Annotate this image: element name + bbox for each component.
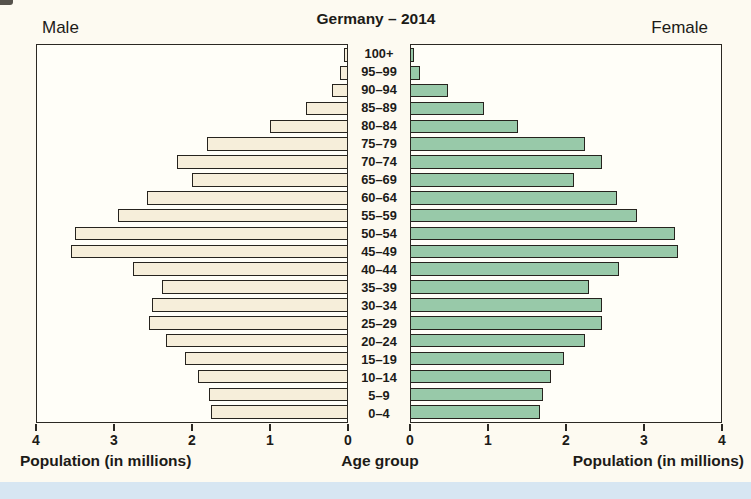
female-bar <box>411 84 448 98</box>
male-bar-row <box>37 189 347 207</box>
male-bar <box>198 370 347 384</box>
female-bar-row <box>411 296 721 314</box>
axis-tick-label: 1 <box>266 432 274 448</box>
male-bar-row <box>37 332 347 350</box>
female-bar <box>411 209 637 223</box>
axis-tick-label: 2 <box>188 432 196 448</box>
male-bar <box>211 405 347 419</box>
female-bar <box>411 191 617 205</box>
male-bar-row <box>37 100 347 118</box>
age-group-labels-column: 100+95–9990–9485–8980–8475–7970–7465–696… <box>348 44 410 423</box>
axis-tick-label: 4 <box>718 432 726 448</box>
age-group-label: 15–19 <box>348 350 410 368</box>
female-bar-row <box>411 207 721 225</box>
chart-title: Germany – 2014 <box>317 10 436 28</box>
male-bar-row <box>37 64 347 82</box>
female-bar-row <box>411 171 721 189</box>
female-bar-row <box>411 242 721 260</box>
female-bar-row <box>411 260 721 278</box>
axis-tick-label: 3 <box>640 432 648 448</box>
age-group-label: 65–69 <box>348 171 410 189</box>
axis-tick-mark <box>721 424 723 431</box>
male-bar <box>152 298 347 312</box>
axis-tick-mark <box>191 424 193 431</box>
female-bar <box>411 102 484 116</box>
female-bar-row <box>411 314 721 332</box>
female-bar <box>411 405 540 419</box>
age-group-label: 80–84 <box>348 117 410 135</box>
female-bar <box>411 370 551 384</box>
male-bar-row <box>37 278 347 296</box>
male-bar-row <box>37 242 347 260</box>
female-bar-row <box>411 100 721 118</box>
female-bar-row <box>411 135 721 153</box>
female-bar <box>411 137 585 151</box>
age-group-label: 100+ <box>348 45 410 63</box>
female-bar-row <box>411 403 721 421</box>
female-bar <box>411 316 602 330</box>
female-bar <box>411 120 518 134</box>
male-bar-row <box>37 367 347 385</box>
male-bar <box>118 209 347 223</box>
male-bar <box>71 245 347 259</box>
page-bottom-strip <box>0 482 751 499</box>
male-axis-ticks: 43210 <box>36 423 348 451</box>
male-side-label: Male <box>42 18 79 38</box>
female-bar <box>411 280 589 294</box>
axis-tick-label: 0 <box>406 432 414 448</box>
axis-tick-mark <box>347 424 349 431</box>
age-group-label: 50–54 <box>348 225 410 243</box>
age-group-label: 35–39 <box>348 278 410 296</box>
scan-corner-mark <box>0 0 13 5</box>
female-bar <box>411 388 543 402</box>
female-bar-row <box>411 46 721 64</box>
axis-tick-mark <box>113 424 115 431</box>
age-group-label: 75–79 <box>348 135 410 153</box>
male-bar <box>192 173 347 187</box>
male-bar-row <box>37 171 347 189</box>
male-bar-row <box>37 82 347 100</box>
age-group-label: 30–34 <box>348 296 410 314</box>
male-bar-row <box>37 135 347 153</box>
axis-tick-label: 4 <box>32 432 40 448</box>
axis-tick-mark <box>643 424 645 431</box>
female-bar <box>411 245 678 259</box>
male-bar <box>270 120 348 134</box>
male-bar <box>133 262 347 276</box>
male-bar <box>344 48 347 62</box>
male-bar-row <box>37 207 347 225</box>
age-group-label: 95–99 <box>348 63 410 81</box>
female-bar <box>411 298 602 312</box>
male-bar <box>209 388 347 402</box>
axis-tick-mark <box>35 424 37 431</box>
age-group-label: 40–44 <box>348 260 410 278</box>
female-bar <box>411 227 675 241</box>
axis-tick-label: 2 <box>562 432 570 448</box>
female-bar-row <box>411 153 721 171</box>
age-group-label: 45–49 <box>348 242 410 260</box>
female-bar-row <box>411 385 721 403</box>
female-bar <box>411 155 602 169</box>
male-bar <box>166 334 347 348</box>
age-group-label: 85–89 <box>348 99 410 117</box>
age-group-label: 5–9 <box>348 386 410 404</box>
age-group-label: 90–94 <box>348 81 410 99</box>
age-group-label: 20–24 <box>348 332 410 350</box>
age-group-label: 70–74 <box>348 153 410 171</box>
female-bar-row <box>411 332 721 350</box>
axis-tick-mark <box>409 424 411 431</box>
axis-tick-mark <box>565 424 567 431</box>
female-bar-row <box>411 350 721 368</box>
male-bar-row <box>37 403 347 421</box>
female-bar-row <box>411 82 721 100</box>
female-bar <box>411 352 564 366</box>
age-group-label: 25–29 <box>348 314 410 332</box>
male-bar-row <box>37 350 347 368</box>
male-bar-row <box>37 296 347 314</box>
male-bar <box>177 155 348 169</box>
female-bar-row <box>411 367 721 385</box>
male-bar-row <box>37 153 347 171</box>
male-bar-row <box>37 225 347 243</box>
male-bar-row <box>37 385 347 403</box>
female-axis-title: Population (in millions) <box>573 452 744 470</box>
